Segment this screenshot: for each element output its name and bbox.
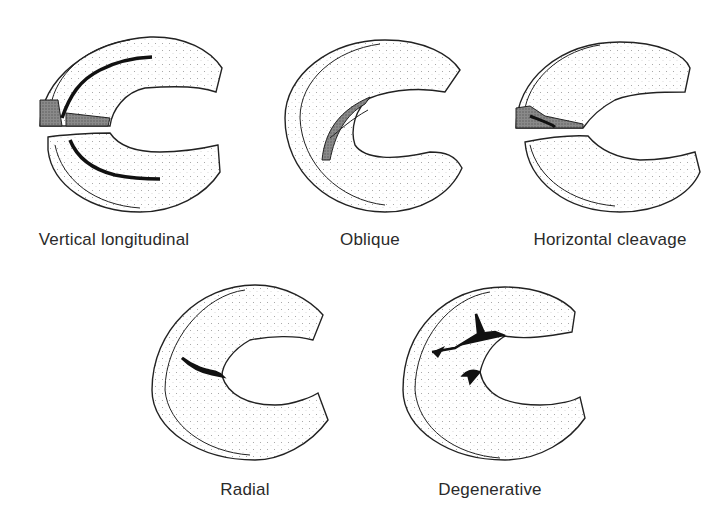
label-horizontal-cleavage: Horizontal cleavage — [533, 230, 686, 250]
label-radial: Radial — [220, 480, 269, 500]
meniscus-diagram — [0, 0, 725, 519]
label-degenerative: Degenerative — [438, 480, 542, 500]
panel-horizontal-cleavage — [516, 42, 700, 212]
panel-degenerative — [403, 287, 585, 460]
label-vertical-longitudinal: Vertical longitudinal — [39, 230, 190, 250]
label-oblique: Oblique — [340, 230, 400, 250]
panel-radial — [152, 285, 328, 460]
panel-vertical-longitudinal — [40, 37, 222, 212]
panel-oblique — [285, 40, 462, 212]
